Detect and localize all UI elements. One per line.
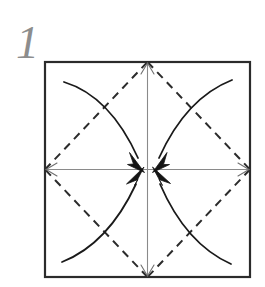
origami-diagram-canvas: 1	[0, 0, 265, 287]
step-number-label: 1	[16, 17, 39, 68]
origami-diagram-figure: 1	[0, 0, 265, 287]
